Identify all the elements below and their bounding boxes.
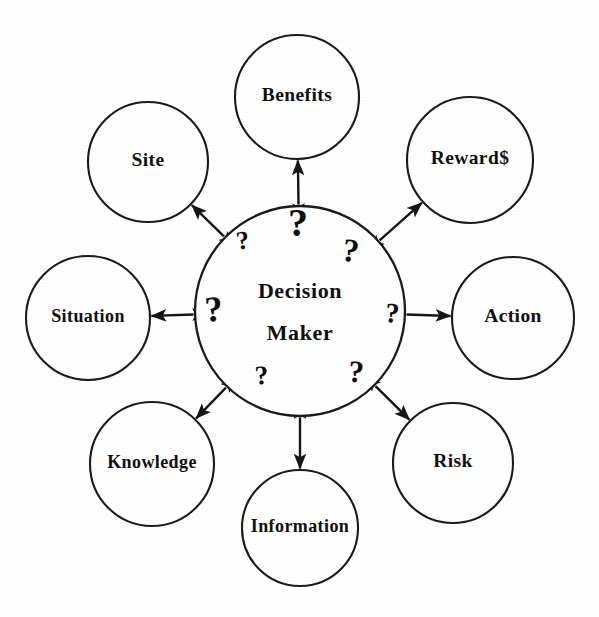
connector-situation	[151, 315, 193, 316]
center-node-group: ??????? Decision Maker	[195, 200, 405, 416]
node-label-knowledge: Knowledge	[107, 452, 197, 472]
connector-rewards	[380, 203, 422, 240]
question-mark-q-top: ?	[288, 200, 308, 245]
node-label-information: Information	[251, 516, 349, 536]
node-label-action: Action	[484, 305, 542, 326]
connector-benefits	[298, 160, 299, 204]
node-label-rewards: Reward$	[431, 147, 510, 168]
node-label-site: Site	[131, 149, 164, 170]
diagram-canvas: BenefitsSiteReward$SituationActionKnowle…	[0, 0, 599, 617]
connector-action	[406, 314, 450, 315]
question-mark-q-lower-right: ?	[347, 354, 365, 390]
decision-maker-diagram: BenefitsSiteReward$SituationActionKnowle…	[0, 0, 599, 617]
question-mark-q-lower-left: ?	[254, 360, 270, 391]
center-label-line2: Maker	[267, 320, 334, 345]
node-label-benefits: Benefits	[262, 84, 332, 105]
connector-site	[192, 205, 224, 236]
center-label-line1: Decision	[258, 278, 342, 303]
connector-risk	[376, 386, 410, 420]
connector-knowledge	[196, 388, 226, 419]
question-mark-q-left: ?	[203, 289, 224, 330]
node-label-risk: Risk	[433, 450, 473, 471]
question-mark-q-right: ?	[384, 297, 401, 329]
node-label-situation: Situation	[51, 306, 125, 326]
